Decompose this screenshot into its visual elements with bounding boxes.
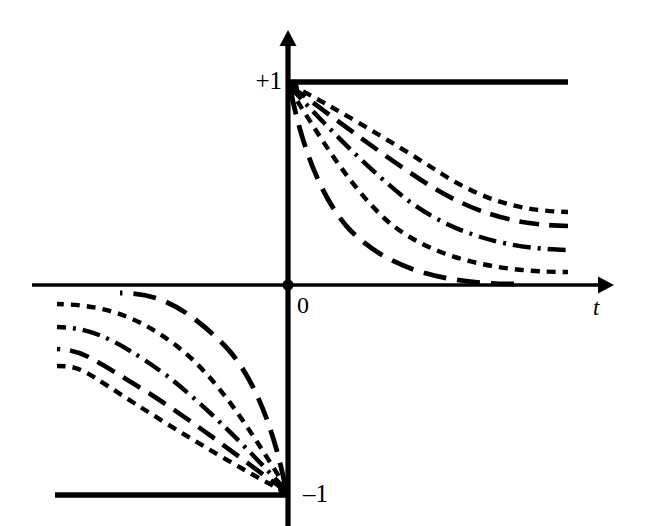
decay-curve-4	[289, 88, 568, 272]
signum-function-plot	[0, 0, 645, 526]
decay-curve-2-mirrored	[57, 349, 287, 492]
origin-dot-icon	[282, 279, 293, 290]
figure-canvas: +1 –1 0 t	[0, 0, 645, 526]
y-axis-label-plus-one: +1	[236, 68, 282, 93]
arrow-up-icon	[280, 30, 297, 46]
decay-curve-5	[291, 92, 520, 284]
y-axis-label-minus-one: –1	[303, 481, 328, 506]
decay-curves-upper-right	[289, 84, 568, 284]
decay-curves-lower-left	[57, 293, 287, 493]
origin-label-zero: 0	[297, 293, 309, 317]
arrow-right-icon	[598, 277, 614, 294]
decay-curve-1	[289, 84, 568, 212]
t-axis-label: t	[593, 296, 599, 319]
decay-curve-5-mirrored	[120, 293, 285, 485]
signum-plateaus	[55, 82, 568, 495]
